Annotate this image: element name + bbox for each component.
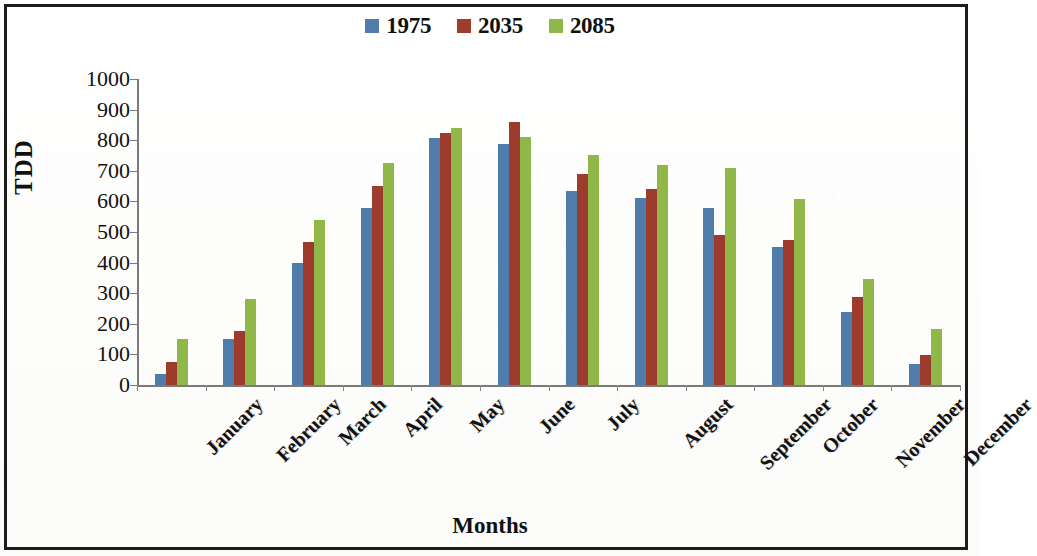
bar-1975-september (703, 208, 714, 385)
x-axis-tick (960, 385, 961, 391)
x-axis-label-february: February (272, 393, 346, 467)
bar-group-november (823, 79, 892, 385)
bar-2035-november (852, 297, 863, 385)
legend-label-2035: 2035 (478, 14, 523, 37)
x-axis-label-january: January (200, 393, 267, 460)
bar-group-july (548, 79, 617, 385)
x-axis-title: Months (0, 513, 980, 539)
y-axis-tick-label: 300 (40, 282, 130, 304)
bar-group-september (686, 79, 755, 385)
y-axis-tick-labels: 01002003004005006007008009001000 (25, 0, 130, 556)
x-axis-label-december: December (959, 393, 1037, 471)
bar-group-october (754, 79, 823, 385)
legend-swatch-2085 (549, 19, 563, 33)
x-axis-tick (137, 385, 138, 391)
y-axis-tick (130, 171, 138, 172)
x-axis-tick (754, 385, 755, 391)
legend-item-1975: 1975 (365, 14, 431, 37)
bar-group-february (206, 79, 275, 385)
x-axis-tick (549, 385, 550, 391)
y-axis-tick (130, 232, 138, 233)
bar-2035-august (646, 189, 657, 385)
x-axis-label-august: August (678, 393, 737, 452)
bar-2085-february (245, 299, 256, 385)
bar-group-june (480, 79, 549, 385)
bar-2085-july (588, 155, 599, 385)
bar-1975-august (635, 198, 646, 385)
bar-1975-april (361, 208, 372, 385)
y-axis-tick (130, 263, 138, 264)
legend-swatch-2035 (457, 19, 471, 33)
bar-1975-december (909, 364, 920, 385)
bar-2085-september (725, 168, 736, 385)
bar-1975-july (566, 191, 577, 385)
y-axis-tick-label: 1000 (40, 68, 130, 90)
bar-group-january (137, 79, 206, 385)
x-axis-label-june: June (534, 393, 579, 438)
x-axis-label-november: November (891, 393, 970, 472)
x-axis-label-may: May (465, 393, 509, 437)
bar-2035-june (509, 122, 520, 385)
bar-2085-january (177, 339, 188, 385)
x-axis-tick (274, 385, 275, 391)
bar-2085-april (383, 163, 394, 385)
bar-2085-march (314, 220, 325, 385)
y-axis-tick (130, 324, 138, 325)
bar-1975-january (155, 374, 166, 385)
x-axis-label-april: April (399, 393, 447, 441)
bar-2085-november (863, 279, 874, 385)
y-axis-tick-label: 900 (40, 99, 130, 121)
bar-2035-february (234, 331, 245, 385)
bar-group-december (891, 79, 960, 385)
bar-1975-february (223, 339, 234, 385)
x-axis-tick (343, 385, 344, 391)
x-axis-tick-labels: JanuaryFebruaryMarchAprilMayJuneJulyAugu… (137, 387, 960, 497)
x-axis-label-march: March (334, 393, 391, 450)
bar-1975-march (292, 263, 303, 385)
bar-group-april (343, 79, 412, 385)
bar-1975-november (841, 312, 852, 385)
y-axis-tick-label: 700 (40, 160, 130, 182)
bar-2035-july (577, 174, 588, 385)
bar-2085-may (451, 128, 462, 385)
bar-2035-may (440, 133, 451, 385)
legend-label-1975: 1975 (386, 14, 431, 37)
bar-1975-june (498, 144, 509, 385)
y-axis-tick-label: 500 (40, 221, 130, 243)
bar-group-august (617, 79, 686, 385)
bar-2035-september (714, 235, 725, 385)
bar-2035-october (783, 240, 794, 385)
x-axis-tick (823, 385, 824, 391)
bar-2035-december (920, 355, 931, 385)
x-axis-tick (686, 385, 687, 391)
legend-item-2085: 2085 (549, 14, 615, 37)
x-axis-tick (206, 385, 207, 391)
legend-label-2085: 2085 (570, 14, 615, 37)
plot-area (137, 79, 960, 385)
bar-2085-october (794, 199, 805, 385)
y-axis-tick (130, 201, 138, 202)
bar-2035-march (303, 242, 314, 385)
y-axis-tick-label: 600 (40, 190, 130, 212)
legend-item-2035: 2035 (457, 14, 523, 37)
y-axis-tick-label: 400 (40, 252, 130, 274)
bar-2035-april (372, 186, 383, 386)
y-axis-tick-label: 200 (40, 313, 130, 335)
bar-1975-may (429, 138, 440, 385)
chart-legend: 197520352085 (0, 14, 980, 37)
bar-group-may (411, 79, 480, 385)
x-axis-tick (617, 385, 618, 391)
x-axis-tick (891, 385, 892, 391)
x-axis-tick (411, 385, 412, 391)
bar-2085-december (931, 329, 942, 385)
y-axis-tick-label: 800 (40, 129, 130, 151)
bar-1975-october (772, 247, 783, 385)
legend-swatch-1975 (365, 19, 379, 33)
y-axis-tick-label: 100 (40, 343, 130, 365)
y-axis-tick-label: 0 (40, 374, 130, 396)
x-axis-label-july: July (602, 393, 644, 435)
bar-2085-june (520, 137, 531, 385)
y-axis-tick (130, 354, 138, 355)
bar-groups (137, 79, 960, 385)
